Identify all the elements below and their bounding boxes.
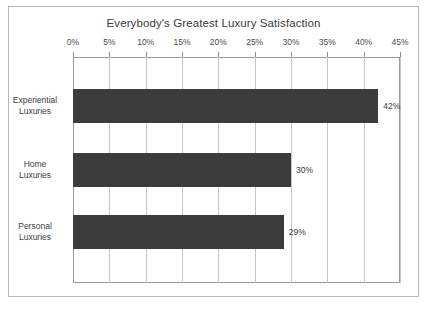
chart-card: Everybody's Greatest Luxury Satisfaction… [8,6,419,297]
bar-value-label: 42% [383,101,400,111]
bar-row: ExperientialLuxuries42% [73,89,400,123]
bar-value-label: 30% [296,165,313,175]
x-axis-tick [73,52,74,57]
x-axis-tick-label: 20% [210,37,227,47]
x-axis-tick [291,52,292,57]
x-axis-tick [400,52,401,57]
plot-area: 0%5%10%15%20%25%30%35%40%45% Experientia… [73,57,400,283]
x-axis-tick-label: 45% [391,37,408,47]
bar-row: PersonalLuxuries29% [73,215,400,249]
bar [73,153,291,187]
category-label: HomeLuxuries [4,159,66,181]
bar-value-label: 29% [289,227,306,237]
gridline [400,57,401,283]
x-axis-tick [255,52,256,57]
x-axis-tick-label: 25% [246,37,263,47]
x-axis-tick [218,52,219,57]
x-axis-tick [364,52,365,57]
bar [73,215,284,249]
category-label: ExperientialLuxuries [4,95,66,117]
x-axis-tick-label: 10% [137,37,154,47]
x-axis-tick-label: 0% [67,37,79,47]
bar [73,89,378,123]
x-axis-tick-label: 5% [103,37,115,47]
x-axis-tick [182,52,183,57]
x-axis-tick [146,52,147,57]
x-axis-tick-label: 35% [319,37,336,47]
x-axis-tick-label: 40% [355,37,372,47]
category-label: PersonalLuxuries [4,221,66,243]
x-axis-tick-label: 30% [282,37,299,47]
chart-title: Everybody's Greatest Luxury Satisfaction [9,17,418,29]
x-axis-tick-label: 15% [173,37,190,47]
x-axis-tick [327,52,328,57]
x-axis-tick [109,52,110,57]
bar-row: HomeLuxuries30% [73,153,400,187]
